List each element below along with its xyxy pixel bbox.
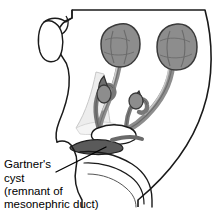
illustration-canvas: Gartner's cyst (remnant of mesonephric d… — [0, 0, 220, 210]
caption-line-1: Gartner's — [4, 158, 51, 170]
caption-line-2: cyst — [4, 172, 25, 184]
caption-line-3: (remnant of — [4, 185, 64, 197]
ovary-right — [157, 24, 197, 70]
caption-line-4: mesonephric duct) — [4, 198, 99, 210]
ovary-left — [101, 24, 140, 67]
anatomical-illustration: Gartner's cyst (remnant of mesonephric d… — [0, 0, 220, 210]
